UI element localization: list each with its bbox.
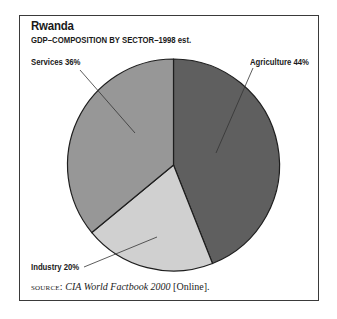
source-suffix: [Online]. xyxy=(173,281,209,292)
pie-slices xyxy=(68,59,280,271)
source-prefix: source: xyxy=(31,281,63,292)
label-services: Services 36% xyxy=(31,57,80,67)
label-agriculture: Agriculture 44% xyxy=(250,57,309,67)
label-industry: Industry 20% xyxy=(31,262,79,272)
source-note: source: CIA World Factbook 2000 [Online]… xyxy=(31,281,209,292)
source-title: CIA World Factbook 2000 xyxy=(65,281,170,292)
